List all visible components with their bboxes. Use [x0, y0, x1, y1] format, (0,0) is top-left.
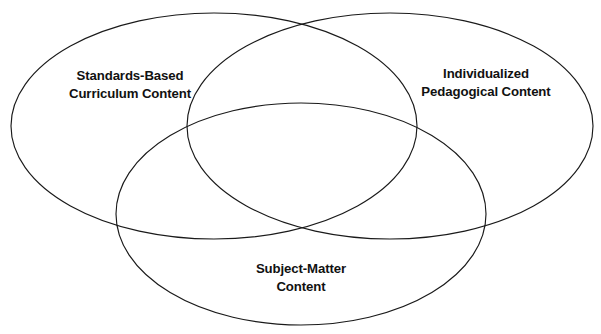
venn-diagram-figure: · · · · · · Standards-Based Curriculum C… [0, 0, 601, 334]
ellipse-individualized-pedagogical-content [187, 13, 593, 239]
ellipse-subject-matter-content [116, 103, 486, 325]
ellipse-standards-based-curriculum-content [11, 13, 417, 239]
venn-circles-svg [0, 0, 601, 334]
